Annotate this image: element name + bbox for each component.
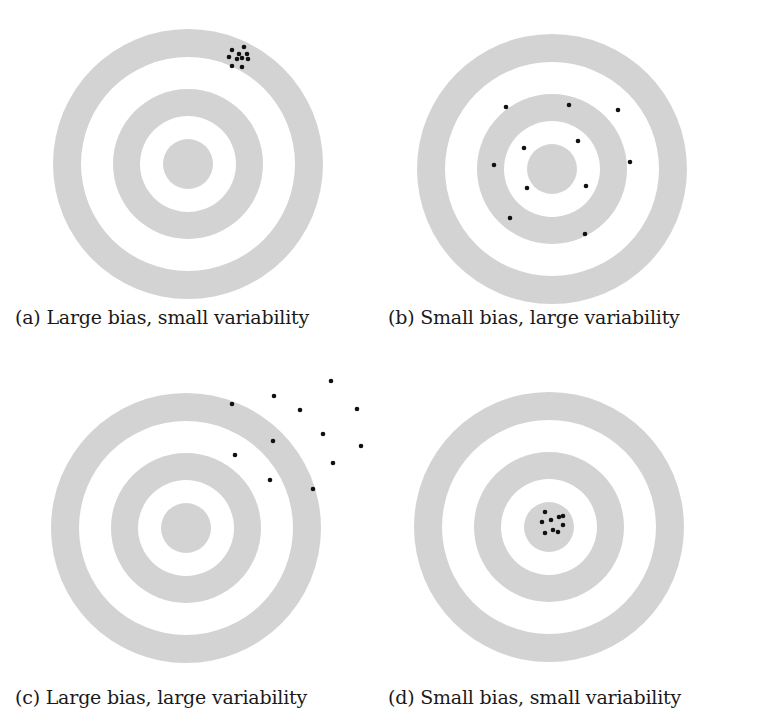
shot-point [311,487,316,492]
target-panel-a [53,29,323,299]
shot-point [230,402,235,407]
caption-a: (a) Large bias, small variability [15,306,309,328]
target-panel-d [414,392,684,662]
shot-point [246,57,251,62]
shot-point [628,160,633,165]
shot-point [522,146,527,151]
shot-point [272,394,277,399]
shot-point [561,523,566,528]
shot-point [230,64,235,69]
shot-point [230,48,235,53]
shot-point [561,514,566,519]
shot-point [240,56,245,61]
shot-point [492,163,497,168]
shot-point [540,520,545,525]
shot-point [245,52,250,57]
target-ring-5 [163,139,213,189]
shot-point [557,515,562,520]
shot-point [359,444,364,449]
caption-b: (b) Small bias, large variability [388,306,680,328]
shot-point [240,65,245,70]
target-panel-c [51,379,363,663]
bias-variability-figure [0,0,773,713]
shot-point [576,139,581,144]
shot-point [242,45,247,50]
shot-point [556,530,561,535]
target-ring-5 [161,503,211,553]
shot-point [268,478,273,483]
shot-point [583,232,588,237]
target-ring-5 [527,144,577,194]
shot-point [321,432,326,437]
target-panel-b [417,34,687,304]
shot-point [508,216,513,221]
shot-point [549,518,554,523]
shot-point [235,57,240,62]
shot-point [584,184,589,189]
shot-point [298,408,303,413]
shot-point [504,105,509,110]
shot-point [233,453,238,458]
caption-c: (c) Large bias, large variability [15,686,307,708]
shot-point [525,186,530,191]
shot-point [271,439,276,444]
shot-point [543,531,548,536]
shot-point [329,379,334,384]
shot-point [331,461,336,466]
shot-point [355,407,360,412]
shot-point [567,103,572,108]
shot-point [237,52,242,57]
shot-point [551,528,556,533]
shot-point [616,108,621,113]
shot-point [227,55,232,60]
target-ring-5 [524,502,574,552]
caption-d: (d) Small bias, small variability [388,686,681,708]
shot-point [543,510,548,515]
